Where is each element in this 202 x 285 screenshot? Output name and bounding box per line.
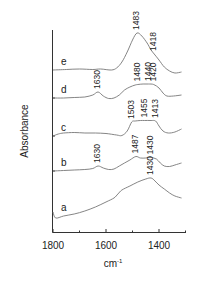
x-tick-label: 1600 bbox=[95, 240, 118, 251]
peak-label: 1483 bbox=[131, 11, 141, 30]
peak-label: 1413 bbox=[150, 99, 160, 118]
peak-label: 1480 bbox=[132, 62, 142, 81]
peak-label: 1430 bbox=[145, 135, 155, 154]
peak-label: 1418 bbox=[148, 32, 158, 51]
spectra-traces bbox=[53, 33, 182, 218]
peak-label: 1455 bbox=[139, 98, 149, 117]
trace-e bbox=[53, 33, 182, 73]
x-tick-label: 1400 bbox=[148, 240, 171, 251]
x-axis-ticks bbox=[53, 229, 186, 233]
trace-label-a: a bbox=[61, 202, 67, 213]
peak-label: 1487 bbox=[130, 134, 140, 153]
trace-label-b: b bbox=[61, 157, 67, 168]
peak-label: 1430 bbox=[145, 156, 155, 175]
peak-labels: 1483141816301480144014201503145514131630… bbox=[92, 11, 160, 175]
trace-b bbox=[53, 156, 182, 171]
trace-label-c: c bbox=[61, 122, 66, 133]
trace-c bbox=[53, 120, 182, 136]
trace-a bbox=[53, 178, 182, 218]
y-axis-title: Absorbance bbox=[19, 104, 30, 158]
x-tick-label: 1800 bbox=[42, 240, 65, 251]
ftir-spectra-chart: 180016001400 edcba 148314181630148014401… bbox=[0, 0, 202, 285]
x-axis-title: cm-1 bbox=[104, 258, 123, 269]
peak-label: 1420 bbox=[148, 62, 158, 81]
trace-d bbox=[53, 84, 182, 99]
trace-label-e: e bbox=[61, 56, 67, 67]
x-axis-tick-labels: 180016001400 bbox=[42, 240, 171, 251]
peak-label: 1630 bbox=[92, 70, 102, 89]
trace-label-d: d bbox=[61, 84, 67, 95]
peak-label: 1630 bbox=[92, 144, 102, 163]
peak-label: 1503 bbox=[126, 100, 136, 119]
trace-labels: edcba bbox=[61, 56, 67, 213]
